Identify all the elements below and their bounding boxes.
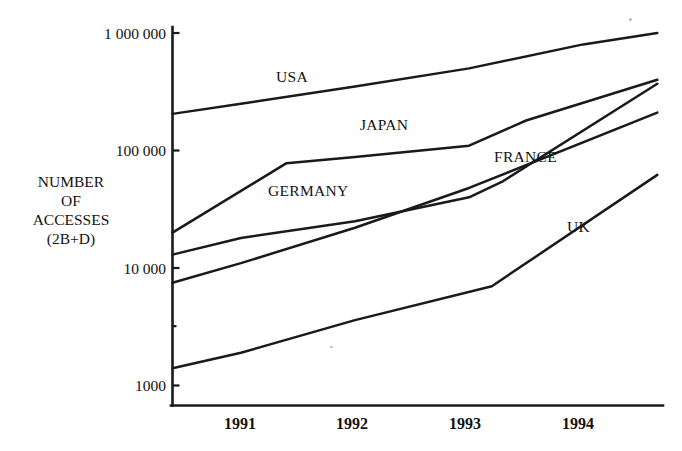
y-axis-title-line-4: (2B+D) bbox=[8, 229, 134, 248]
y-axis-title-line-1: NUMBER bbox=[8, 172, 134, 191]
x-tick-label-1994: 1994 bbox=[536, 415, 620, 433]
y-tick-label-1000: 1000 bbox=[58, 377, 166, 395]
series-paths bbox=[173, 33, 658, 368]
y-axis-title-line-2: OF bbox=[8, 191, 134, 210]
y-tick-label-100000: 100 000 bbox=[58, 142, 166, 160]
scan-speck bbox=[629, 18, 632, 21]
series-line-uk bbox=[173, 175, 658, 368]
series-label-uk: UK bbox=[567, 218, 590, 236]
series-label-usa: USA bbox=[276, 68, 308, 86]
series-label-germany: GERMANY bbox=[268, 182, 348, 200]
scan-speck bbox=[330, 346, 333, 348]
y-tick-label-1000000: 1 000 000 bbox=[58, 25, 166, 43]
axes-group bbox=[171, 27, 663, 406]
chart-container: 1 000 000 100 000 10 000 1000 1991 1992 … bbox=[0, 0, 682, 451]
series-label-japan: JAPAN bbox=[360, 116, 408, 134]
x-tick-label-1991: 1991 bbox=[198, 415, 282, 433]
y-axis-title: NUMBER OF ACCESSES (2B+D) bbox=[8, 172, 134, 248]
series-label-france: FRANCE bbox=[494, 148, 557, 166]
x-tick-label-1992: 1992 bbox=[310, 415, 394, 433]
x-tick-label-1993: 1993 bbox=[423, 415, 507, 433]
series-line-france bbox=[173, 113, 658, 283]
y-tick-label-10000: 10 000 bbox=[58, 260, 166, 278]
y-axis-title-line-3: ACCESSES bbox=[8, 210, 134, 229]
